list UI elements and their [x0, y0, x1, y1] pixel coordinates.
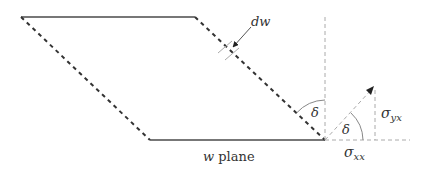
arrow-head-icon [366, 86, 374, 95]
shear-plane-diagram: dw δ δ σyx σxx w plane [0, 0, 428, 173]
right-dashed-edge [195, 17, 325, 140]
sigma-xx-label: σxx [344, 144, 365, 162]
sigma-yx-label: σyx [381, 105, 402, 123]
dw-label: dw [251, 14, 270, 29]
dw-arrow [233, 27, 251, 47]
delta-left-label: δ [311, 105, 319, 120]
left-dashed-edge [21, 17, 150, 140]
delta-right-label: δ [342, 122, 350, 137]
dw-thickness-marker [218, 27, 251, 60]
w-plane-label: w plane [203, 149, 255, 164]
delta-angle-arc-right [351, 113, 363, 140]
